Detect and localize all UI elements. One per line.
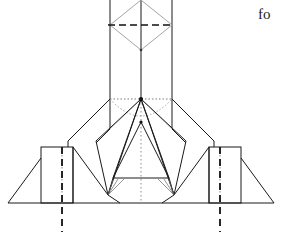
left-outer-wedge	[8, 158, 41, 203]
diamond-edge-top-left	[110, 0, 141, 25]
left-apron-edge	[108, 195, 120, 203]
hub-to-left-inner-strut	[113, 99, 141, 178]
right-panel-lower-edge	[172, 129, 186, 143]
right-foot-block	[209, 147, 241, 203]
left-foot-rect	[41, 147, 73, 203]
secondary-hub-bracing	[113, 122, 169, 178]
diamond-edge-bottom-left	[110, 25, 141, 50]
diamond-edge-top-right	[141, 0, 172, 25]
hub-to-right-inner-strut	[141, 99, 169, 178]
technical-line-drawing	[0, 0, 282, 232]
right-apron-edge	[162, 195, 174, 203]
left-foot-block	[41, 147, 73, 203]
left-base-node-strands	[108, 179, 124, 195]
right-shoulder-panel	[172, 99, 214, 195]
secondary-hub-node	[139, 120, 142, 123]
left-wedge-hypotenuse	[8, 158, 41, 203]
left-shoulder-panel	[68, 99, 110, 195]
left-panel-lower-edge	[96, 129, 110, 143]
right-foot-rect	[209, 147, 241, 203]
diamond-edge-bottom-right	[141, 25, 172, 50]
right-wedge-hypotenuse	[241, 158, 274, 203]
clipped-caption-fragment: fo	[258, 6, 282, 22]
right-outer-wedge	[241, 158, 274, 203]
diamond-apex-node	[140, 49, 143, 52]
shoulder-hub-node	[139, 97, 143, 101]
right-base-node-strands	[158, 179, 174, 195]
